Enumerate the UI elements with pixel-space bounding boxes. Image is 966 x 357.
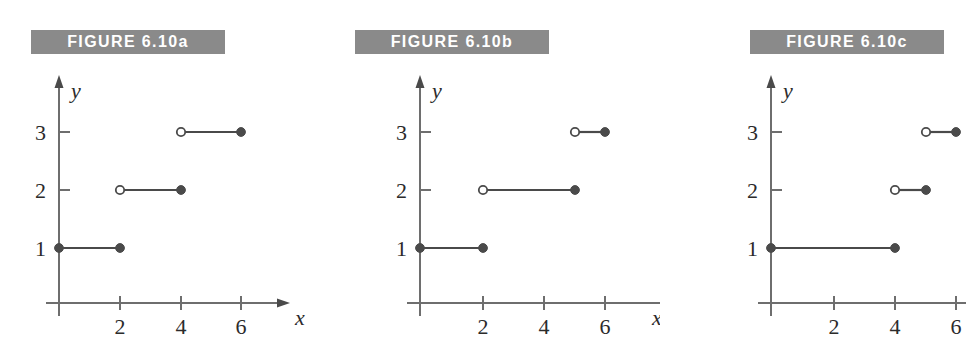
y-tick-label-2-a: 2 — [35, 178, 46, 203]
y-tick-label-2-c: 2 — [747, 178, 758, 203]
figure-panel-a: FIGURE 6.10a 3 2 1 2 4 6 y — [0, 0, 330, 357]
closed-endpoint-0-1-b — [416, 244, 425, 253]
closed-endpoint-4-1-c — [891, 244, 900, 253]
y-axis-arrow-a — [55, 75, 64, 88]
x-tick-label-2-c: 2 — [829, 314, 840, 339]
y-axis-label-c: y — [781, 78, 793, 103]
y-tick-label-1-c: 1 — [747, 236, 758, 261]
open-endpoint-2-2-a — [116, 186, 124, 194]
y-axis-arrow-b — [416, 75, 425, 88]
closed-endpoint-2-1-a — [116, 244, 125, 253]
x-tick-label-6-c: 6 — [951, 314, 962, 339]
x-tick-label-6-a: 6 — [236, 314, 247, 339]
y-tick-label-1-a: 1 — [35, 236, 46, 261]
x-tick-label-6-b: 6 — [600, 314, 611, 339]
closed-endpoint-6-3-a — [237, 128, 246, 137]
figure-panel-b: FIGURE 6.10b 3 2 1 2 4 6 y — [330, 0, 660, 357]
closed-endpoint-0-1-a — [55, 244, 64, 253]
closed-endpoint-6-3-b — [601, 128, 610, 137]
open-endpoint-4-3-a — [177, 128, 185, 136]
x-tick-label-2-a: 2 — [115, 314, 126, 339]
y-tick-label-1-b: 1 — [396, 236, 407, 261]
closed-endpoint-5-2-b — [571, 186, 580, 195]
y-tick-label-3-b: 3 — [396, 120, 407, 145]
x-axis-arrow-a — [277, 299, 290, 308]
x-axis-label-a: x — [294, 305, 305, 330]
x-axis-label-b: x — [651, 305, 660, 330]
x-tick-label-4-b: 4 — [539, 314, 550, 339]
closed-endpoint-2-1-b — [479, 244, 488, 253]
x-tick-label-2-b: 2 — [478, 314, 489, 339]
closed-endpoint-6-3-c — [952, 128, 961, 137]
y-tick-label-3-c: 3 — [747, 120, 758, 145]
open-endpoint-5-3-c — [922, 128, 930, 136]
figure-panel-c: FIGURE 6.10c 3 2 1 2 4 6 y — [660, 0, 966, 357]
y-tick-label-2-b: 2 — [396, 178, 407, 203]
x-tick-label-4-a: 4 — [176, 314, 187, 339]
y-tick-label-3-a: 3 — [35, 120, 46, 145]
open-endpoint-2-2-b — [479, 186, 487, 194]
open-endpoint-5-3-b — [571, 128, 579, 136]
closed-endpoint-5-2-c — [922, 186, 931, 195]
plot-a: 3 2 1 2 4 6 y x — [0, 0, 330, 357]
y-axis-label-a: y — [69, 78, 81, 103]
y-axis-arrow-c — [767, 75, 776, 88]
open-endpoint-4-2-c — [891, 186, 899, 194]
closed-endpoint-0-1-c — [767, 244, 776, 253]
y-axis-label-b: y — [430, 78, 442, 103]
closed-endpoint-4-2-a — [177, 186, 186, 195]
plot-c: 3 2 1 2 4 6 y — [660, 0, 966, 357]
x-tick-label-4-c: 4 — [890, 314, 901, 339]
plot-b: 3 2 1 2 4 6 y x — [330, 0, 660, 357]
